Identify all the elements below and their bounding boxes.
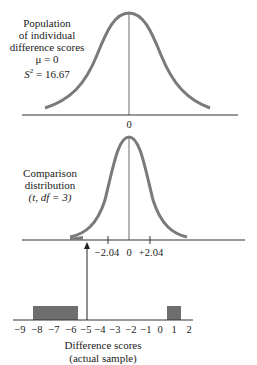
- x-tick: 1: [171, 324, 176, 335]
- variance-number: = 16.67: [33, 68, 69, 80]
- x-tick: −2: [125, 324, 136, 335]
- x-tick: −7: [48, 324, 59, 335]
- x-tick: −9: [14, 324, 25, 335]
- x-tick: 0: [157, 324, 162, 335]
- label-line: Population: [2, 17, 92, 29]
- variance-value: S2 = 16.67: [2, 65, 92, 80]
- comparison-label: Comparison distribution (t, df = 3): [20, 167, 80, 203]
- label-line: distribution: [20, 179, 80, 191]
- bar-right: [167, 306, 181, 320]
- top-axis-zero: 0: [126, 119, 131, 130]
- x-tick: −6: [65, 324, 76, 335]
- sample-histogram: [13, 306, 193, 320]
- x-tick: −5: [80, 324, 91, 335]
- x-tick: −1: [140, 324, 151, 335]
- x-axis-subtitle: (actual sample): [58, 352, 148, 364]
- tick-label-pos-cutoff: +2.04: [139, 247, 163, 258]
- mean-value: μ = 0: [2, 53, 92, 65]
- tick-label-zero: 0: [126, 247, 131, 258]
- x-tick: −8: [31, 324, 42, 335]
- label-line: difference scores: [2, 41, 92, 53]
- t-curve: [70, 137, 187, 237]
- label-params: (t, df = 3): [20, 191, 80, 203]
- sample-mean-arrow: [84, 242, 90, 320]
- tick-label-neg-cutoff: −2.04: [95, 247, 119, 258]
- x-tick: −4: [94, 324, 105, 335]
- x-tick: −3: [109, 324, 120, 335]
- bar-left: [33, 306, 78, 320]
- label-line: Comparison: [20, 167, 80, 179]
- label-line: of individual: [2, 29, 92, 41]
- x-tick: 2: [186, 324, 191, 335]
- population-label: Population of individual difference scor…: [2, 17, 92, 80]
- x-axis-title: Difference scores: [58, 339, 148, 351]
